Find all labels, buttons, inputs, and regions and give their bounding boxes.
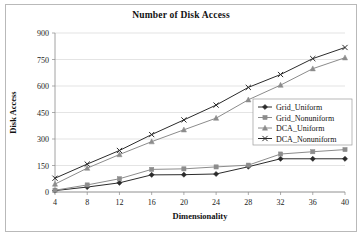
series-grid-uniform-marker-diamond xyxy=(181,172,186,177)
series-grid-uniform-marker-diamond xyxy=(342,156,347,161)
series-grid-nonuniform-marker-square xyxy=(117,177,121,181)
y-axis-tick-label: 150 xyxy=(37,162,49,171)
legend-grid-nonuniform-marker-square xyxy=(263,115,267,119)
series-line-grid-nonuniform xyxy=(55,150,345,191)
x-axis-tick-label: 16 xyxy=(148,198,156,207)
legend-label-grid-uniform: Grid_Uniform xyxy=(276,103,323,112)
x-axis-tick-label: 28 xyxy=(244,198,252,207)
series-grid-nonuniform-marker-square xyxy=(278,152,282,156)
series-grid-uniform-marker-diamond xyxy=(310,156,315,161)
series-grid-nonuniform-marker-square xyxy=(343,148,347,152)
x-axis-title: Dimensionality xyxy=(173,211,229,221)
y-axis-tick-label: 600 xyxy=(37,82,49,91)
y-axis-tick-label: 450 xyxy=(37,109,49,118)
x-axis-tick-label: 8 xyxy=(85,198,89,207)
y-axis-tick-label: 750 xyxy=(37,56,49,65)
series-grid-uniform-marker-diamond xyxy=(149,172,154,177)
plot-area: 0150300450600750900481216202428323640Dim… xyxy=(0,0,362,245)
x-axis-tick-label: 32 xyxy=(277,198,285,207)
y-axis-tick-label: 300 xyxy=(37,135,49,144)
series-dca-uniform-marker-triangle xyxy=(214,115,219,120)
legend-label-dca-uniform: DCA_Uniform xyxy=(276,124,325,133)
series-grid-nonuniform-marker-square xyxy=(182,167,186,171)
series-dca-uniform-marker-triangle xyxy=(342,55,347,60)
series-grid-nonuniform-marker-square xyxy=(246,163,250,167)
x-axis-tick-label: 24 xyxy=(212,198,220,207)
y-axis-tick-label: 0 xyxy=(45,188,49,197)
x-axis-tick-label: 40 xyxy=(341,198,349,207)
y-axis-tick-label: 900 xyxy=(37,29,49,38)
x-axis-tick-label: 36 xyxy=(309,198,317,207)
series-dca-uniform-marker-triangle xyxy=(278,82,283,87)
legend-label-dca-nonuniform: DCA_Nonuniform xyxy=(276,135,337,144)
series-grid-uniform-marker-diamond xyxy=(278,156,283,161)
legend-label-grid-nonuniform: Grid_Nonuniform xyxy=(276,114,335,123)
series-grid-uniform-marker-diamond xyxy=(214,171,219,176)
y-axis-title: Disk Access xyxy=(8,91,18,134)
x-axis-tick-label: 12 xyxy=(115,198,123,207)
chart-svg: 0150300450600750900481216202428323640Dim… xyxy=(0,0,362,245)
x-axis-tick-label: 4 xyxy=(53,198,57,207)
chart-screenshot: Number of Disk Access 015030045060075090… xyxy=(0,0,362,245)
series-grid-nonuniform-marker-square xyxy=(85,183,89,187)
series-grid-nonuniform-marker-square xyxy=(311,150,315,154)
x-axis-tick-label: 20 xyxy=(180,198,188,207)
series-grid-nonuniform-marker-square xyxy=(214,165,218,169)
series-grid-nonuniform-marker-square xyxy=(53,188,57,192)
series-grid-nonuniform-marker-square xyxy=(150,167,154,171)
series-dca-uniform-marker-triangle xyxy=(52,181,57,186)
